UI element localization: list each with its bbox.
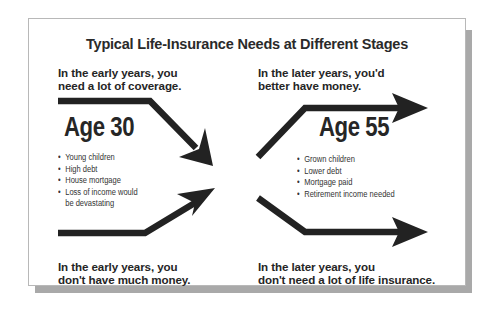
bullet-icon: • — [58, 175, 61, 187]
infographic-card: Typical Life-Insurance Needs at Differen… — [28, 18, 466, 286]
list-item: •Retirement income needed — [297, 189, 395, 201]
bullet-icon: • — [297, 189, 300, 201]
list-item-text: Young children — [65, 152, 115, 162]
list-item-text: Lower debt — [304, 166, 341, 176]
diagram-title: Typical Life-Insurance Needs at Differen… — [29, 36, 465, 52]
list-item: •Lower debt — [297, 166, 395, 178]
age-55-label: Age 55 — [319, 112, 389, 143]
later-years-money-caption: In the later years, you'd better have mo… — [258, 66, 385, 92]
caption-line: In the later years, you'd — [258, 66, 385, 79]
early-years-money-caption: In the early years, you don't have much … — [58, 260, 190, 286]
bullet-icon: • — [58, 152, 61, 164]
list-item: •Young children — [58, 152, 138, 164]
list-item-text: House mortgage — [65, 175, 121, 185]
list-item: •Grown children — [297, 154, 395, 166]
list-item-text: Retirement income needed — [304, 189, 395, 199]
age-55-factors-list: •Grown children •Lower debt •Mortgage pa… — [297, 154, 395, 200]
list-item-text: Loss of income would — [65, 187, 137, 197]
caption-line: don't need a lot of life insurance. — [258, 273, 435, 286]
age-30-label: Age 30 — [64, 112, 134, 143]
list-item: •High debt — [58, 164, 138, 176]
list-item: •Mortgage paid — [297, 177, 395, 189]
caption-line: In the early years, you — [58, 260, 190, 273]
later-years-coverage-caption: In the later years, you don't need a lot… — [258, 260, 435, 286]
age-30-factors-list: •Young children •High debt •House mortga… — [58, 152, 138, 210]
list-item-text: Grown children — [304, 154, 355, 164]
list-item: •House mortgage — [58, 175, 138, 187]
bullet-icon: • — [297, 154, 300, 166]
caption-line: better have money. — [258, 79, 385, 92]
list-item: •Loss of income would — [58, 187, 138, 199]
bullet-icon: • — [58, 164, 61, 176]
caption-line: In the early years, you — [58, 66, 181, 79]
caption-line: don't have much money. — [58, 273, 190, 286]
list-item-continuation: be devastating — [58, 198, 138, 210]
caption-line: need a lot of coverage. — [58, 79, 181, 92]
list-item-text: be devastating — [65, 198, 114, 208]
bullet-icon: • — [58, 187, 61, 199]
early-years-coverage-caption: In the early years, you need a lot of co… — [58, 66, 181, 92]
list-item-text: Mortgage paid — [304, 177, 352, 187]
list-item-text: High debt — [65, 164, 97, 174]
bullet-icon: • — [297, 177, 300, 189]
bullet-icon: • — [297, 166, 300, 178]
caption-line: In the later years, you — [258, 260, 435, 273]
